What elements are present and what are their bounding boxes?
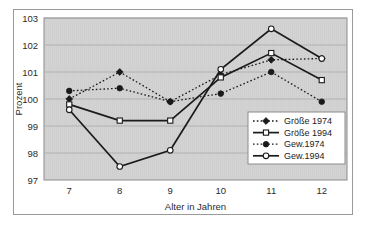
y-tick-label: 97 xyxy=(27,175,38,186)
legend-label: Größe 1974 xyxy=(284,116,332,126)
data-point-marker xyxy=(218,91,224,97)
data-point-marker xyxy=(268,69,274,75)
legend-label: Gew.1974 xyxy=(284,139,325,149)
y-tick-label: 100 xyxy=(22,94,38,105)
data-point-marker xyxy=(167,99,173,105)
data-point-marker xyxy=(268,26,274,32)
data-point-marker xyxy=(117,85,123,91)
y-axis-ticks: 979899100101102103 xyxy=(22,13,38,186)
legend-marker xyxy=(263,141,269,147)
data-point-marker xyxy=(218,67,224,73)
legend-marker xyxy=(263,130,268,135)
legend-label: Größe 1994 xyxy=(284,128,332,138)
x-tick-label: 9 xyxy=(168,185,173,196)
chart-figure: 979899100101102103 789101112 Alter in Ja… xyxy=(0,0,366,226)
y-tick-label: 102 xyxy=(22,40,38,51)
data-point-marker xyxy=(269,51,274,56)
data-point-marker xyxy=(67,102,72,107)
data-point-marker xyxy=(319,99,325,105)
data-point-marker xyxy=(218,75,223,80)
y-tick-label: 99 xyxy=(27,121,38,132)
data-point-marker xyxy=(66,107,72,113)
legend-label: Gew.1994 xyxy=(284,151,325,161)
data-point-marker xyxy=(66,88,72,94)
legend-marker xyxy=(263,153,269,159)
data-point-marker xyxy=(319,78,324,83)
y-axis-title: Prozent xyxy=(13,82,24,115)
x-tick-label: 10 xyxy=(215,185,226,196)
x-tick-label: 7 xyxy=(67,185,72,196)
data-point-marker xyxy=(117,164,123,170)
chart-legend: Größe 1974Größe 1994Gew.1974Gew.1994 xyxy=(248,112,345,164)
line-chart: 979899100101102103 789101112 Alter in Ja… xyxy=(0,0,366,226)
data-point-marker xyxy=(117,118,122,123)
y-tick-label: 103 xyxy=(22,13,38,24)
y-tick-label: 98 xyxy=(27,148,38,159)
y-tick-label: 101 xyxy=(22,67,38,78)
x-tick-label: 12 xyxy=(316,185,327,196)
x-axis-title: Alter in Jahren xyxy=(165,201,226,212)
x-axis-ticks: 789101112 xyxy=(67,185,327,196)
data-point-marker xyxy=(167,148,173,154)
data-point-marker xyxy=(319,56,325,62)
data-point-marker xyxy=(168,118,173,123)
x-tick-label: 11 xyxy=(266,185,276,196)
x-tick-label: 8 xyxy=(117,185,122,196)
